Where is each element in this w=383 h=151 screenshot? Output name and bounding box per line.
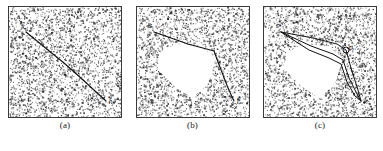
plot-svg-c: s f o xyxy=(263,6,377,118)
panel-c: s f o (c) xyxy=(261,6,379,130)
label-start-c: s xyxy=(276,21,279,30)
plot-area-a: s f xyxy=(8,6,122,118)
caption-b: (b) xyxy=(187,121,198,130)
panel-b: s f (b) xyxy=(134,6,252,130)
caption-a: (a) xyxy=(60,121,71,130)
label-start-a: s xyxy=(21,21,24,30)
label-start-b: s xyxy=(149,21,152,30)
label-obstacle-point-c: o xyxy=(349,43,353,52)
panel-a: s f (a) xyxy=(6,6,124,130)
figure-container: s f (a) s f (b) xyxy=(0,0,383,151)
plot-svg-a: s f xyxy=(8,6,122,118)
plot-area-c: s f o xyxy=(263,6,377,118)
plot-area-b: s f xyxy=(136,6,250,118)
caption-c: (c) xyxy=(315,121,326,130)
plot-svg-b: s f xyxy=(136,6,250,118)
